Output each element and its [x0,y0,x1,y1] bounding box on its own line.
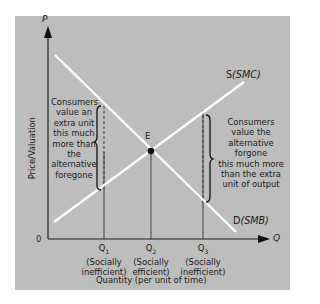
equilibrium-label: E [145,131,150,141]
q1-note-1: (Socially [79,257,129,267]
left-annotation-line: foregone [51,170,97,180]
right-annotation-line: unit of output [218,179,284,189]
right-annotation-line: value the [218,127,284,137]
q1-label: Q1 (Socially inefficient) [79,243,129,278]
equilibrium-point [148,148,155,155]
x-axis-label: Quantity (per unit of time) [96,275,206,285]
y-axis-arrow-icon [44,26,52,38]
right-annotation-line: than the extra [218,169,284,179]
left-annotation-line: more than [51,139,97,149]
right-annotation-line: this much more [218,159,284,169]
right-annotation-line: alternative [218,138,284,148]
right-brace-icon [206,115,213,202]
left-annotation-line: value an [51,107,97,117]
right-annotation-line: forgone [218,148,284,158]
left-annotation-line: Consumers [51,97,97,107]
q3-subscript: 3 [204,248,208,255]
demand-label: D(SMB) [233,216,269,226]
supply-label-paren: (SMC) [232,69,261,80]
y-axis-symbol: P [42,14,47,24]
right-annotation-line: Consumers [218,117,284,127]
right-annotation: Consumers value the alternative forgone … [218,117,284,190]
left-annotation-line: alternative [51,159,97,169]
left-annotation: Consumers value an extra unit this much … [51,97,97,180]
left-annotation-line: extra unit [51,118,97,128]
x-axis-arrow-icon [258,235,270,243]
q2-label: Q2 (Socially efficient) [126,243,176,278]
q2-subscript: 2 [152,248,156,255]
demand-label-paren: (SMB) [240,215,268,226]
left-annotation-line: this much [51,128,97,138]
q3-note-1: (Socially [178,257,228,267]
supply-label: S(SMC) [226,70,261,80]
q2-note-1: (Socially [126,257,176,267]
q1-subscript: 1 [105,248,109,255]
left-annotation-line: the [51,149,97,159]
y-axis-label: Price/Valuation [27,108,37,188]
q3-label: Q3 (Socially inefficient) [178,243,228,278]
x-axis-symbol: Q [273,233,280,243]
origin-label: 0 [36,234,41,244]
